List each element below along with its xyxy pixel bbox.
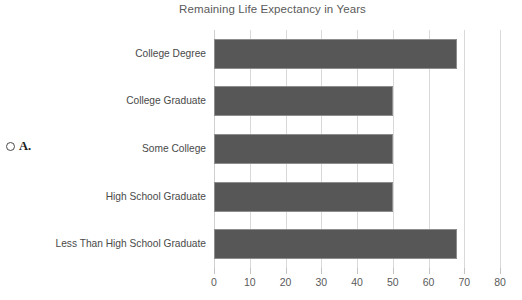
x-tick-label: 80 [494, 276, 506, 288]
x-tick-label: 60 [423, 276, 435, 288]
x-tick-10 [250, 268, 251, 274]
category-label: High School Graduate [6, 191, 206, 202]
bar-row [214, 39, 500, 69]
x-tick-0 [214, 268, 215, 274]
x-tick-30 [321, 268, 322, 274]
x-tick-40 [357, 268, 358, 274]
plot-area [214, 30, 500, 268]
x-tick-label: 30 [315, 276, 327, 288]
x-tick-50 [393, 268, 394, 274]
bar [214, 229, 457, 259]
bar [214, 182, 393, 212]
x-tick-label: 10 [244, 276, 256, 288]
x-tick-label: 0 [211, 276, 217, 288]
bar-chart: Remaining Life Expectancy in Years Colle… [0, 0, 522, 300]
bar [214, 86, 393, 116]
x-tick-label: 70 [458, 276, 470, 288]
x-tick-60 [429, 268, 430, 274]
bar-row [214, 134, 500, 164]
category-label: College Graduate [6, 95, 206, 106]
category-label: Some College [6, 143, 206, 154]
x-tick-80 [500, 268, 501, 274]
bar-row [214, 86, 500, 116]
chart-title: Remaining Life Expectancy in Years [120, 3, 425, 15]
x-tick-20 [286, 268, 287, 274]
bar [214, 39, 457, 69]
gridline-80 [500, 30, 501, 268]
bar-row [214, 182, 500, 212]
category-label: College Degree [6, 48, 206, 59]
bar-row [214, 229, 500, 259]
x-tick-70 [464, 268, 465, 274]
category-label: Less Than High School Graduate [6, 238, 206, 249]
x-tick-label: 20 [280, 276, 292, 288]
y-axis-category-labels: College DegreeCollege GraduateSome Colle… [0, 30, 206, 268]
x-tick-label: 40 [351, 276, 363, 288]
x-axis: 01020304050607080 [214, 268, 500, 298]
bar [214, 134, 393, 164]
x-tick-label: 50 [387, 276, 399, 288]
